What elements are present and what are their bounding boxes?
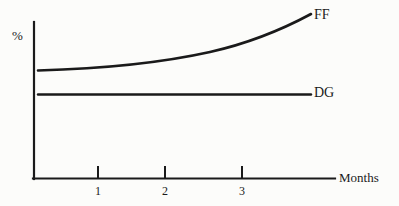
x-axis-label: Months bbox=[339, 171, 379, 184]
series-label-ff: FF bbox=[314, 8, 330, 22]
y-axis-label: % bbox=[12, 29, 23, 42]
chart-figure: % Months FF DG 1 2 3 bbox=[0, 0, 399, 206]
x-tick-label-2: 2 bbox=[155, 184, 175, 199]
series-label-dg: DG bbox=[314, 86, 334, 100]
series-line-ff bbox=[38, 14, 311, 71]
x-tick-label-3: 3 bbox=[232, 184, 252, 199]
x-tick-label-1: 1 bbox=[88, 184, 108, 199]
